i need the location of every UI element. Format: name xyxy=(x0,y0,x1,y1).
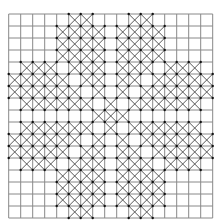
intersection-dot xyxy=(80,61,82,63)
intersection-dot xyxy=(152,13,154,15)
intersection-dot xyxy=(188,121,190,123)
intersection-dot xyxy=(140,157,142,159)
intersection-dot xyxy=(8,85,10,87)
intersection-dot xyxy=(188,73,190,75)
intersection-dot xyxy=(68,37,70,39)
intersection-dot xyxy=(164,145,166,147)
intersection-dot xyxy=(164,37,166,39)
intersection-dot xyxy=(176,61,178,63)
intersection-dot xyxy=(80,133,82,135)
intersection-dot xyxy=(152,97,154,99)
intersection-dot xyxy=(116,37,118,39)
intersection-dot xyxy=(116,97,118,99)
intersection-dot xyxy=(152,49,154,51)
intersection-dot xyxy=(68,205,70,207)
intersection-dot xyxy=(80,97,82,99)
intersection-dot xyxy=(128,145,130,147)
intersection-dot xyxy=(140,121,142,123)
intersection-dot xyxy=(80,169,82,171)
intersection-dot xyxy=(140,217,142,219)
intersection-dot xyxy=(92,13,94,15)
intersection-dot xyxy=(56,73,58,75)
intersection-dot xyxy=(140,169,142,171)
intersection-dot xyxy=(212,157,214,159)
intersection-dot xyxy=(68,217,70,219)
intersection-dot xyxy=(32,61,34,63)
intersection-dot xyxy=(140,181,142,183)
intersection-dot xyxy=(56,61,58,63)
intersection-dot xyxy=(104,61,106,63)
intersection-dot xyxy=(164,169,166,171)
intersection-dot xyxy=(200,121,202,123)
intersection-dot xyxy=(92,61,94,63)
intersection-dot xyxy=(152,169,154,171)
intersection-dot xyxy=(176,85,178,87)
intersection-dot xyxy=(92,217,94,219)
intersection-dot xyxy=(92,193,94,195)
intersection-dot xyxy=(116,61,118,63)
intersection-dot xyxy=(128,157,130,159)
intersection-dot xyxy=(188,145,190,147)
intersection-dot xyxy=(104,97,106,99)
intersection-dot xyxy=(116,157,118,159)
intersection-dot xyxy=(68,133,70,135)
intersection-dot xyxy=(104,109,106,111)
intersection-dot xyxy=(92,73,94,75)
intersection-dot xyxy=(116,25,118,27)
intersection-dot xyxy=(92,145,94,147)
intersection-dot xyxy=(44,73,46,75)
intersection-dot xyxy=(92,205,94,207)
intersection-dot xyxy=(128,205,130,207)
intersection-dot xyxy=(200,85,202,87)
intersection-dot xyxy=(164,205,166,207)
intersection-dot xyxy=(44,133,46,135)
intersection-dot xyxy=(80,157,82,159)
intersection-dot xyxy=(128,169,130,171)
intersection-dot xyxy=(176,169,178,171)
intersection-dot xyxy=(92,121,94,123)
intersection-dot xyxy=(20,133,22,135)
intersection-dot xyxy=(152,61,154,63)
intersection-dot xyxy=(44,121,46,123)
intersection-dot xyxy=(104,25,106,27)
intersection-dot xyxy=(212,85,214,87)
intersection-dot xyxy=(128,37,130,39)
intersection-dot xyxy=(140,109,142,111)
intersection-dot xyxy=(176,97,178,99)
intersection-dot xyxy=(56,205,58,207)
intersection-dot xyxy=(68,13,70,15)
intersection-dot xyxy=(32,73,34,75)
intersection-dot xyxy=(176,121,178,123)
intersection-dot xyxy=(92,25,94,27)
intersection-dot xyxy=(140,133,142,135)
intersection-dot xyxy=(32,121,34,123)
intersection-dot xyxy=(56,169,58,171)
intersection-dot xyxy=(32,169,34,171)
intersection-dot xyxy=(140,37,142,39)
intersection-dot xyxy=(164,109,166,111)
intersection-dot xyxy=(200,145,202,147)
intersection-dot xyxy=(164,49,166,51)
intersection-dot xyxy=(140,49,142,51)
intersection-dot xyxy=(152,37,154,39)
intersection-dot xyxy=(92,109,94,111)
intersection-dot xyxy=(188,61,190,63)
intersection-dot xyxy=(56,121,58,123)
intersection-dot xyxy=(56,157,58,159)
intersection-dot xyxy=(176,73,178,75)
intersection-dot xyxy=(68,85,70,87)
intersection-dot xyxy=(80,145,82,147)
intersection-dot xyxy=(164,181,166,183)
intersection-dot xyxy=(128,49,130,51)
intersection-dot xyxy=(68,97,70,99)
intersection-dot xyxy=(56,181,58,183)
intersection-dot xyxy=(68,49,70,51)
intersection-dot xyxy=(20,85,22,87)
intersection-dot xyxy=(200,133,202,135)
intersection-dot xyxy=(176,157,178,159)
intersection-dot xyxy=(128,133,130,135)
intersection-dot xyxy=(140,25,142,27)
intersection-dot xyxy=(44,145,46,147)
intersection-dot xyxy=(32,157,34,159)
intersection-dot xyxy=(32,145,34,147)
